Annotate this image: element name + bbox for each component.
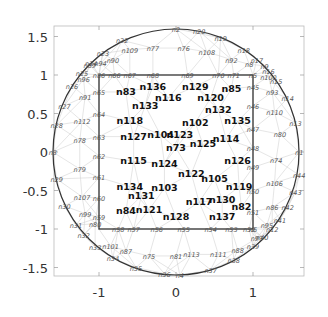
node-label: n100 bbox=[260, 74, 277, 82]
node-label: n116 bbox=[155, 92, 182, 103]
node-label: n30 bbox=[58, 203, 70, 211]
node-label: n65 bbox=[93, 89, 105, 97]
node-label: n93 bbox=[266, 89, 278, 97]
node-label: n80 bbox=[274, 131, 286, 139]
node-label: n29 bbox=[50, 176, 62, 184]
node-label: n54 bbox=[204, 226, 216, 234]
node-label: n68 bbox=[147, 72, 159, 80]
node-label: n41 bbox=[274, 217, 286, 225]
node-label: n13 bbox=[289, 120, 301, 128]
node-label: n47 bbox=[247, 126, 260, 134]
y-tick-label: 0.5 bbox=[27, 107, 48, 122]
node-label: n22 bbox=[116, 37, 128, 45]
node-label: n73 bbox=[166, 142, 186, 153]
node-label: n2 bbox=[172, 26, 180, 34]
node-label: n26 bbox=[66, 83, 78, 91]
x-tick-label: 0 bbox=[172, 285, 180, 300]
node-label: n86 bbox=[93, 72, 105, 80]
y-tick-label: -0.5 bbox=[23, 184, 48, 199]
node-label: n86 bbox=[266, 204, 278, 212]
node-label: n132 bbox=[205, 104, 232, 115]
node-label: n87 bbox=[120, 248, 133, 256]
node-label: n129 bbox=[182, 81, 209, 92]
y-tick-label: 1 bbox=[40, 68, 48, 83]
node-label: n53 bbox=[225, 226, 237, 234]
node-label: n135 bbox=[224, 115, 251, 126]
node-label: n81 bbox=[170, 253, 182, 261]
node-label: n77 bbox=[147, 45, 160, 53]
node-label: n45 bbox=[247, 84, 259, 92]
node-label: n1 bbox=[295, 149, 303, 157]
node-label: n4 bbox=[176, 272, 184, 280]
node-label: n115 bbox=[120, 155, 147, 166]
node-label: n32 bbox=[77, 232, 89, 240]
node-label: n44 bbox=[293, 172, 305, 180]
node-label: n99 bbox=[79, 211, 91, 219]
node-label: n85 bbox=[221, 83, 241, 94]
node-label: n126 bbox=[224, 155, 251, 166]
node-label: n137 bbox=[209, 211, 236, 222]
node-label: n112 bbox=[74, 118, 91, 126]
node-label: n3 bbox=[49, 149, 57, 157]
node-label: n56 bbox=[151, 226, 163, 234]
node-label: n39 bbox=[247, 243, 259, 251]
node-label: n20 bbox=[193, 28, 205, 36]
node-label: n128 bbox=[163, 211, 190, 222]
node-label: n63 bbox=[93, 134, 105, 142]
node-label: n38 bbox=[228, 257, 240, 265]
node-label: n62 bbox=[93, 153, 105, 161]
y-tick-label: -1 bbox=[35, 222, 48, 237]
node-label: n133 bbox=[132, 100, 159, 111]
node-label: n42 bbox=[281, 204, 293, 212]
node-label: n111 bbox=[210, 251, 227, 259]
node-label: n71 bbox=[228, 72, 240, 80]
node-label: n8 bbox=[245, 61, 253, 69]
node-label: n91 bbox=[79, 94, 91, 102]
node-label: n92 bbox=[225, 57, 237, 65]
node-label: n102 bbox=[182, 117, 209, 128]
node-label: n94 bbox=[94, 60, 106, 68]
node-label: n88 bbox=[231, 247, 243, 255]
node-label: n103 bbox=[151, 182, 178, 193]
y-tick-label: 0 bbox=[40, 145, 48, 160]
node-label: n79 bbox=[74, 166, 86, 174]
node-label: n84 bbox=[116, 205, 136, 216]
node-label: n14 bbox=[281, 95, 293, 103]
x-tick-label: 1 bbox=[249, 285, 257, 300]
node-label: n33 bbox=[89, 244, 101, 252]
node-label: n27 bbox=[58, 103, 71, 111]
node-label: n78 bbox=[74, 137, 86, 145]
node-label: n35 bbox=[130, 265, 142, 273]
node-label: n67 bbox=[124, 72, 137, 80]
node-labels: n1n13n14n15n16n17n18n19n20n2n22n23n24n25… bbox=[49, 26, 306, 280]
node-label: n34 bbox=[107, 255, 119, 263]
mesh-plot: n1n13n14n15n16n17n18n19n20n2n22n23n24n25… bbox=[0, 0, 328, 317]
node-label: n57 bbox=[127, 226, 140, 234]
node-label: n19 bbox=[214, 35, 226, 43]
node-label: n108 bbox=[199, 49, 216, 57]
node-label: n107 bbox=[74, 194, 91, 202]
node-label: n31 bbox=[70, 222, 82, 230]
node-label: n66 bbox=[108, 72, 120, 80]
node-label: n60 bbox=[93, 195, 105, 203]
node-label: n95 bbox=[261, 222, 273, 230]
y-tick-label: 1.5 bbox=[27, 30, 48, 45]
node-label: n74 bbox=[270, 157, 282, 165]
node-label: n43 bbox=[289, 189, 301, 197]
node-label: n136 bbox=[140, 81, 167, 92]
node-label: n80 bbox=[89, 221, 101, 229]
node-label: n46 bbox=[247, 103, 259, 111]
node-label: n83 bbox=[116, 86, 136, 97]
x-tick-label: -1 bbox=[93, 285, 106, 300]
node-label: n69 bbox=[181, 72, 193, 80]
node-label: n119 bbox=[226, 181, 253, 192]
node-label: n61 bbox=[93, 174, 105, 182]
node-label: n6 bbox=[249, 226, 257, 234]
y-tick-label: -1.5 bbox=[23, 261, 48, 276]
node-label: n121 bbox=[136, 204, 163, 215]
node-label: n18 bbox=[238, 47, 250, 55]
node-label: n110 bbox=[266, 109, 283, 117]
node-label: n120 bbox=[197, 92, 224, 103]
node-label: n90 bbox=[107, 57, 119, 65]
node-label: n105 bbox=[201, 173, 228, 184]
